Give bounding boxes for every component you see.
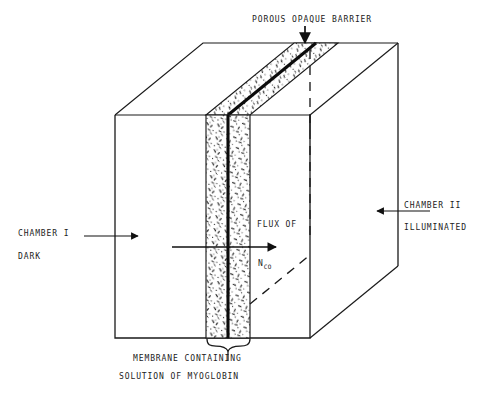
label-flux-symbol-subscript: CO xyxy=(264,263,272,270)
label-chamber-ii: CHAMBER II xyxy=(404,200,461,212)
label-flux-of: FLUX OF xyxy=(257,219,297,231)
label-chamber-i: CHAMBER I xyxy=(18,228,69,240)
label-porous-opaque-barrier: POROUS OPAQUE BARRIER xyxy=(252,14,372,26)
label-membrane-line1: MEMBRANE CONTAINING xyxy=(133,353,242,365)
label-chamber-ii-state: ILLUMINATED xyxy=(404,222,467,234)
diagram-svg xyxy=(0,0,481,397)
membrane-slab-front-right xyxy=(228,115,250,338)
label-membrane-line2: SOLUTION OF MYOGLOBIN xyxy=(119,371,239,383)
membrane-slab-front-left xyxy=(206,115,228,338)
diagram-canvas: POROUS OPAQUE BARRIER CHAMBER I DARK CHA… xyxy=(0,0,481,397)
label-chamber-i-state: DARK xyxy=(18,251,41,263)
box-right-face xyxy=(310,43,398,338)
label-flux-symbol: NCO xyxy=(258,258,272,273)
